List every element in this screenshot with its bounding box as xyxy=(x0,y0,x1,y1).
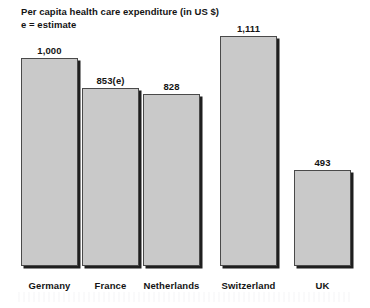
bar-chart: Per capita health care expenditure (in U… xyxy=(0,0,370,308)
bar-france[interactable] xyxy=(82,88,139,266)
category-label-netherlands: Netherlands xyxy=(143,280,200,291)
plot-area: 1,000Germany853(e)France828Netherlands1,… xyxy=(0,0,370,308)
scan-artifact-footer xyxy=(18,292,352,302)
category-label-france: France xyxy=(82,280,139,291)
category-label-germany: Germany xyxy=(21,280,78,291)
bar-switzerland[interactable] xyxy=(220,36,277,266)
category-label-switzerland: Switzerland xyxy=(220,280,277,291)
bar-value-label: 1,000 xyxy=(21,45,78,56)
bar-value-label: 853(e) xyxy=(82,75,139,86)
category-label-uk: UK xyxy=(294,280,351,291)
bar-value-label: 828 xyxy=(143,81,200,92)
bar-netherlands[interactable] xyxy=(143,94,200,266)
bar-value-label: 493 xyxy=(294,157,351,168)
bar-group: 853(e)France xyxy=(82,0,139,308)
bar-group: 1,111Switzerland xyxy=(220,0,277,308)
bar-value-label: 1,111 xyxy=(220,23,277,34)
bar-group: 1,000Germany xyxy=(21,0,78,308)
bar-group: 828Netherlands xyxy=(143,0,200,308)
bar-germany[interactable] xyxy=(21,58,78,266)
bar-group: 493UK xyxy=(294,0,351,308)
bar-uk[interactable] xyxy=(294,170,351,266)
